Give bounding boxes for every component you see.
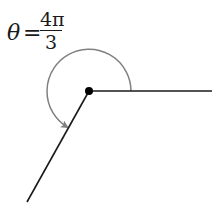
angle-diagram: [0, 0, 220, 213]
terminal-side-ray: [27, 91, 89, 202]
vertex-point: [85, 87, 93, 95]
